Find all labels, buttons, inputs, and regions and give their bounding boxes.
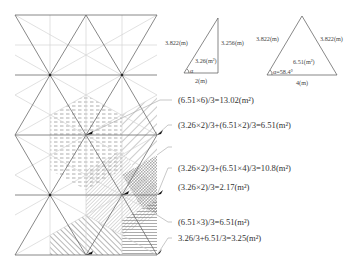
isosceles-left-side-label: 3.822(m) — [256, 34, 279, 44]
right-triangle-base-label: 2(m) — [195, 76, 207, 86]
annotation-diagonal-bold-region: (6.51×3)/3=6.51(m²) — [178, 217, 249, 227]
region-diagonal-wide — [122, 95, 157, 168]
annotation-dashed-region: (6.51×6)/3=13.02(m²) — [178, 95, 254, 105]
right-triangle-hypotenuse-label: 3.822(m) — [165, 38, 188, 48]
annotation-diagonal-wide-region: (3.26×2)/3+(6.51×2)/3=6.51(m²) — [178, 120, 291, 130]
right-triangle-height-label: 3.256(m) — [221, 38, 244, 48]
hatched-regions — [50, 95, 157, 255]
isosceles-angle-label: α=58.4° — [273, 67, 293, 77]
isosceles-base-label: 4(m) — [296, 78, 308, 88]
isosceles-area-label: 6.51(m²) — [293, 57, 315, 67]
annotation-horizontal-region: 3.26/3+6.51/3=3.25(m²) — [178, 233, 261, 243]
isosceles-right-side-label: 3.822(m) — [320, 34, 343, 44]
annotation-checker-region: (3.26×2)/3=2.17(m²) — [178, 182, 249, 192]
right-triangle-angle-label: α — [190, 66, 193, 76]
annotation-diagonal-dense-region: (3.26×2)/3+(6.51×4)/3=10.8(m²) — [178, 163, 291, 173]
right-triangle-area-label: 3.26(m²) — [195, 56, 217, 66]
